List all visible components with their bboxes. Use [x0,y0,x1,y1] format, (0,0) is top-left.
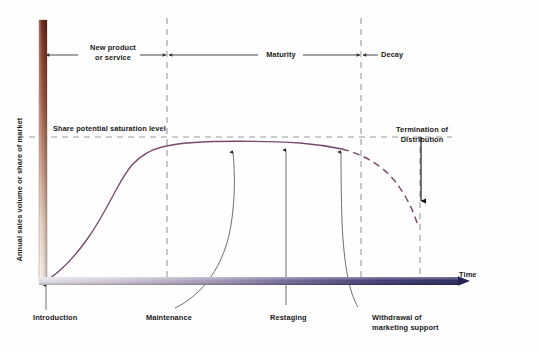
x-axis-label: Time [459,270,509,280]
annotation-share-potential-saturation-level: Share potential saturation level [53,124,233,134]
annotation-maintenance: Maintenance [146,313,236,323]
annotation-restaging: Restaging [270,313,350,323]
annotation-termination-of-distribution: Termination of Distribution [383,125,461,145]
y-axis [39,20,47,281]
phase-label-decay: Decay [381,50,441,60]
annotation-withdrawal-of-marketing-support: Withdrawal of marketing support [372,313,482,333]
y-axis-label: Annual sales volume or share of market [15,105,24,275]
curve-growth-solid [46,141,342,281]
phase-label-new-product-or-service: New product or service [63,43,163,63]
annotation-introduction: Introduction [33,313,123,323]
x-axis [39,276,470,286]
phase-label-maturity: Maturity [236,50,326,60]
product-life-cycle-chart: Annual sales volume or share of market N… [0,0,539,352]
curve-decay-dashed [342,149,418,226]
life-cycle-curve [46,141,418,281]
